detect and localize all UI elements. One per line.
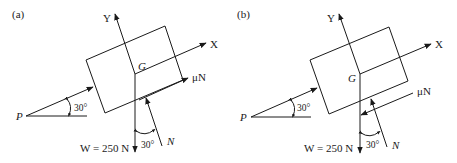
force-p-label: P <box>15 110 23 122</box>
friction-label: μN <box>417 85 431 97</box>
panel-a: (a) Y X G W = 250 N P 30° μN N 30° <box>12 8 218 154</box>
x-axis-label: X <box>210 38 218 50</box>
x-axis-arrow <box>360 44 431 74</box>
force-p-label: P <box>239 111 247 123</box>
y-axis-label: Y <box>103 12 111 24</box>
y-axis-arrow <box>339 14 360 74</box>
angle-p-label: 30° <box>74 103 88 113</box>
panel-b: (b) Y X G W = 250 N P 30° μN N 30° <box>237 8 443 154</box>
angle-arc-n <box>361 132 379 136</box>
normal-force-label: N <box>391 139 400 151</box>
normal-force-label: N <box>166 135 175 147</box>
weight-label: W = 250 N <box>304 142 353 154</box>
friction-arrow <box>361 93 413 115</box>
panel-label: (a) <box>12 8 25 21</box>
angle-arc-n <box>136 130 154 134</box>
center-of-gravity-label: G <box>138 60 146 72</box>
weight-label: W = 250 N <box>80 142 129 154</box>
friction-label: μN <box>192 71 206 83</box>
y-axis-label: Y <box>327 12 335 24</box>
angle-n-label: 30° <box>366 140 380 150</box>
angle-arc-p <box>67 99 71 115</box>
normal-force-arrow <box>146 98 162 146</box>
angle-p-label: 30° <box>297 103 311 113</box>
panel-label: (b) <box>237 8 250 21</box>
x-axis-label: X <box>435 38 443 50</box>
angle-n-label: 30° <box>141 140 155 150</box>
center-of-gravity-label: G <box>348 72 356 84</box>
free-body-diagrams: (a) Y X G W = 250 N P 30° μN N 30° (b) <box>0 0 457 163</box>
friction-arrow <box>139 78 188 100</box>
y-axis-arrow <box>115 14 135 74</box>
angle-arc-p <box>291 100 295 116</box>
